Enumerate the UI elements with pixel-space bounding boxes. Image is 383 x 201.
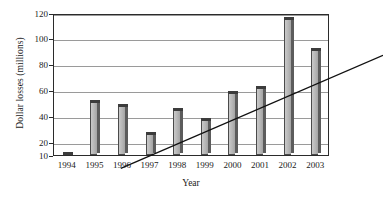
bar — [201, 120, 211, 155]
bar — [173, 110, 183, 155]
y-axis-tick-label: 60 — [20, 87, 48, 96]
bar — [311, 50, 321, 155]
bar-front-face — [201, 120, 208, 155]
bar-top-cap — [118, 104, 128, 107]
bar-front-face — [90, 102, 97, 155]
bar — [256, 88, 266, 155]
bar-top-cap — [311, 48, 321, 51]
bar-side-face — [235, 91, 238, 153]
gridline — [54, 15, 328, 16]
y-axis-tick-labels: 1020406080100120 — [20, 0, 48, 201]
bar-side-face — [263, 86, 266, 153]
bar-side-face — [208, 118, 211, 153]
bar-side-face — [153, 132, 156, 153]
bar-front-face — [146, 134, 153, 155]
x-axis-title: Year — [53, 178, 329, 188]
bar-side-face — [291, 17, 294, 153]
bar-side-face — [97, 100, 100, 153]
bar-side-face — [125, 104, 128, 153]
bar-top-cap — [173, 108, 183, 111]
y-axis-tick-label: 80 — [20, 61, 48, 70]
bar — [228, 93, 238, 155]
bar-front-face — [228, 93, 235, 155]
bar-side-face — [318, 48, 321, 153]
bar-front-face — [118, 106, 125, 155]
x-axis-tick-labels: 1994199519961997199819992000200120022003 — [53, 160, 329, 174]
bar-top-cap — [146, 132, 156, 135]
x-axis-tick-label: 2003 — [295, 160, 335, 170]
y-axis-tick-label: 20 — [20, 139, 48, 148]
plot-area — [53, 14, 329, 156]
bar — [90, 102, 100, 155]
bar — [146, 134, 156, 155]
y-axis-tick-label: 10 — [20, 152, 48, 161]
bar-front-face — [256, 88, 263, 155]
bar-top-cap — [228, 91, 238, 94]
bar-top-cap — [256, 86, 266, 89]
bar — [284, 19, 294, 155]
bar-top-cap — [63, 152, 73, 155]
y-axis-tick-label: 40 — [20, 113, 48, 122]
bar-top-cap — [90, 100, 100, 103]
bar-front-face — [173, 110, 180, 155]
bar-front-face — [311, 50, 318, 155]
y-axis-tick-label: 120 — [20, 10, 48, 19]
bar-top-cap — [201, 118, 211, 121]
y-axis-tick-label: 100 — [20, 35, 48, 44]
bar-side-face — [180, 108, 183, 153]
bar-front-face — [284, 19, 291, 155]
bar — [118, 106, 128, 155]
bar — [63, 154, 73, 155]
bar-top-cap — [284, 17, 294, 20]
